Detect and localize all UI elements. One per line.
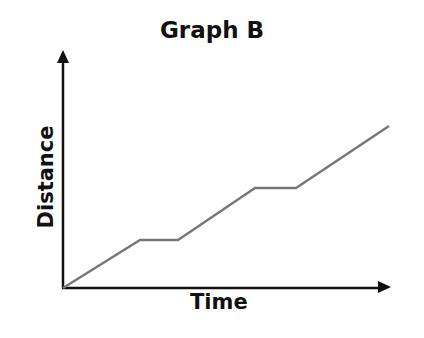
distance-time-line bbox=[63, 126, 389, 288]
y-axis-label: Distance bbox=[34, 126, 58, 229]
y-axis-arrow-icon bbox=[57, 50, 69, 63]
x-axis-arrow-icon bbox=[378, 281, 391, 293]
chart-plot bbox=[0, 0, 424, 338]
x-axis-label: Time bbox=[190, 290, 248, 314]
